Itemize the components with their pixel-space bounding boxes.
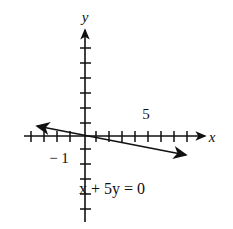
x-tick-label-5: 5 bbox=[142, 106, 150, 122]
x-tick-label-negative-1: − 1 bbox=[49, 150, 69, 166]
x-axis-label: x bbox=[208, 129, 216, 145]
equation-annotation: x + 5y = 0 bbox=[79, 180, 145, 198]
graph-figure: x y 5 − 1 bbox=[0, 0, 233, 229]
coordinate-plane-chart: x y 5 − 1 bbox=[0, 0, 233, 229]
y-axis-label: y bbox=[80, 9, 89, 25]
